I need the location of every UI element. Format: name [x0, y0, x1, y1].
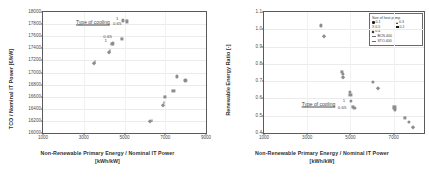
data-point-circle: [350, 99, 353, 102]
y-tick-label: 17800: [28, 22, 41, 27]
x-tick-label: 3000: [79, 136, 89, 141]
circle-marker-icon: [372, 21, 375, 24]
grid-line: [264, 47, 424, 48]
left-x-axis-label-line1: Non-Renewable Primary Energy / Nominal I…: [41, 150, 175, 156]
grid-line: [264, 64, 424, 65]
chart-panel-right: Renewable Energy Ratio [-] Size of heat …: [215, 0, 429, 178]
data-point-circle: [111, 42, 114, 45]
left-plot-area: 1600016200164001660016800170001720017400…: [42, 11, 207, 134]
data-point-circle: [184, 79, 187, 82]
data-point-diamond: [411, 126, 415, 130]
right-x-axis-label-line1: Non-Renewable Primary Energy / Nominal I…: [255, 150, 389, 156]
annotation-label: 0.65: [113, 22, 122, 26]
y-tick-mark: [41, 72, 43, 73]
y-tick-mark: [41, 108, 43, 109]
chart-panel-left: TCO / Nominal IT Power [€/kW] 1600016200…: [0, 0, 215, 178]
x-tick-label: 3000: [302, 136, 312, 141]
data-point-square: [163, 95, 166, 98]
y-tick-label: 17200: [28, 58, 41, 63]
annotation-label: Type of cooling: [76, 19, 110, 24]
grid-line-vertical: [394, 12, 395, 133]
x-tick-label: 9000: [201, 136, 211, 141]
y-tick-mark: [41, 48, 43, 49]
legend-title: Size of heat pump: [372, 16, 420, 20]
data-point-circle: [371, 80, 374, 83]
y-tick-mark: [41, 36, 43, 37]
figure-container: TCO / Nominal IT Power [€/kW] 1600016200…: [0, 0, 429, 178]
y-tick-mark: [41, 60, 43, 61]
y-tick-mark: [262, 98, 264, 99]
data-point-square: [120, 38, 123, 41]
x-tick-label: 7000: [389, 136, 399, 141]
y-tick-label: 16200: [28, 119, 41, 124]
data-point-triangle: [151, 118, 153, 121]
y-tick-mark: [41, 12, 43, 13]
grid-line-vertical: [165, 12, 166, 133]
data-point-square: [172, 90, 175, 93]
square-marker-icon: [396, 26, 399, 29]
y-tick-label: 1.0: [256, 27, 262, 32]
grid-line: [264, 29, 424, 30]
grid-line-vertical: [307, 12, 308, 133]
y-tick-label: 18000: [28, 10, 41, 15]
data-point-circle: [353, 106, 356, 109]
data-point-diamond: [376, 86, 380, 90]
data-point-square: [403, 117, 406, 120]
left-x-axis-label-line2: [kWh/kW]: [95, 158, 120, 164]
y-tick-label: 1.1: [256, 10, 262, 15]
data-point-triangle: [94, 60, 96, 63]
data-point-circle: [319, 24, 322, 27]
data-point-diamond: [322, 34, 326, 38]
triangle-marker-icon: [396, 22, 398, 24]
y-tick-label: 0.8: [256, 62, 262, 67]
grid-line-vertical: [125, 12, 126, 133]
legend-line-label: STO-400: [378, 39, 392, 44]
data-point-circle: [407, 120, 410, 123]
line-swatch-icon: [372, 36, 376, 37]
line-swatch-icon: [372, 41, 376, 42]
grid-line: [264, 81, 424, 82]
y-tick-label: 17400: [28, 46, 41, 51]
legend-line-item: STO-400: [372, 39, 420, 44]
y-tick-mark: [262, 81, 264, 82]
x-tick-label: 1000: [38, 136, 48, 141]
grid-line: [264, 116, 424, 117]
right-y-axis-label: Renewable Energy Ratio [-]: [225, 41, 231, 119]
y-tick-mark: [41, 84, 43, 85]
data-point-triangle: [109, 48, 111, 51]
annotation-label: 1: [343, 99, 345, 103]
y-tick-label: 16400: [28, 107, 41, 112]
data-point-circle: [393, 108, 396, 111]
y-tick-mark: [262, 115, 264, 116]
data-point-circle: [175, 75, 178, 78]
y-tick-label: 0.7: [256, 79, 262, 84]
grid-line-vertical: [84, 12, 85, 133]
right-x-axis-label-line2: [kWh/kW]: [310, 158, 335, 164]
data-point-square: [349, 93, 352, 96]
y-tick-label: 17000: [28, 70, 41, 75]
y-tick-label: 17600: [28, 34, 41, 39]
left-x-axis-label: Non-Renewable Primary Energy / Nominal I…: [0, 150, 215, 166]
annotation-label: 0.65: [338, 106, 347, 110]
x-tick-label: 7000: [160, 136, 170, 141]
y-tick-mark: [41, 96, 43, 97]
diamond-marker-icon: [372, 30, 375, 33]
x-tick-label: 5000: [119, 136, 129, 141]
left-y-axis-label: TCO / Nominal IT Power [€/kW]: [8, 46, 14, 132]
data-point-triangle: [163, 101, 165, 104]
annotation-label: Type of cooling: [302, 102, 336, 107]
x-tick-label: 1000: [259, 136, 269, 141]
y-tick-mark: [262, 29, 264, 30]
y-tick-label: 0.5: [256, 113, 262, 118]
right-plot-area: Size of heat pump 0.10.3X 0.50.20.4 BCN-…: [263, 11, 425, 134]
legend-marker-list: 0.10.3X 0.50.20.4: [372, 20, 420, 34]
y-tick-mark: [262, 63, 264, 64]
y-tick-label: 0.9: [256, 44, 262, 49]
x-tick-label: 5000: [345, 136, 355, 141]
data-point-square: [125, 20, 128, 23]
right-x-axis-label: Non-Renewable Primary Energy / Nominal I…: [215, 150, 429, 166]
y-tick-label: 16600: [28, 94, 41, 99]
y-tick-mark: [41, 120, 43, 121]
legend-line-list: BCN-400STO-400: [372, 34, 420, 43]
y-tick-mark: [262, 12, 264, 13]
